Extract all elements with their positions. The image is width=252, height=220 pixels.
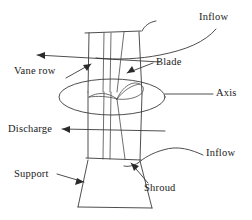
label-blade: Blade — [156, 56, 182, 67]
vane-row-leader — [66, 64, 91, 78]
label-discharge: Discharge — [8, 123, 52, 134]
vane-row-lines — [103, 32, 125, 159]
label-vane-row: Vane row — [14, 65, 56, 76]
label-axis: Axis — [216, 87, 237, 98]
label-support: Support — [14, 168, 49, 179]
blade-leader — [127, 63, 153, 73]
turbine-diagram — [0, 0, 252, 220]
upper-flow-arrow — [37, 52, 160, 62]
label-shroud: Shroud — [144, 182, 176, 193]
label-inflow-bottom: Inflow — [206, 147, 235, 158]
discharge-arrow — [62, 126, 165, 133]
inflow-bottom-curve — [124, 148, 203, 166]
support-base — [78, 160, 152, 208]
rotor-disc — [59, 79, 165, 115]
blade-left — [89, 93, 117, 99]
inflow-top-curve — [96, 21, 216, 59]
blade-right — [117, 83, 143, 99]
label-inflow-top: Inflow — [199, 11, 228, 22]
duct-shroud — [85, 31, 142, 160]
shroud-leader — [131, 163, 148, 183]
support-leader — [57, 174, 84, 185]
figure-canvas: Inflow Blade Axis Vane row Discharge Inf… — [0, 0, 252, 220]
